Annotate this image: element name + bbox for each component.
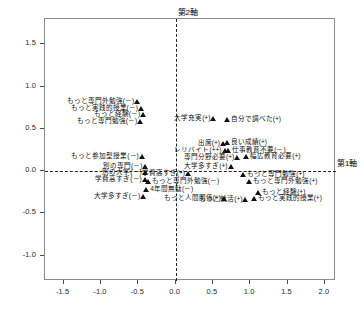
data-point-marker — [137, 119, 143, 124]
data-point-marker — [210, 116, 216, 121]
data-point-label: もっと専門勉強(+) — [247, 171, 304, 178]
horizontal-axis-title: 第1軸 — [337, 157, 357, 168]
y-axis-tick-label: -0.5 — [8, 207, 36, 216]
x-axis-tick-label: 0.0 — [160, 287, 190, 296]
x-axis-tick — [63, 280, 64, 284]
data-point-marker — [246, 179, 252, 184]
data-point-label: 出席(+) — [198, 139, 220, 146]
data-point-label: もっと参加型授業(－) — [71, 153, 138, 160]
data-point-label: 自分で調べた(+) — [231, 116, 281, 123]
data-point-marker — [140, 194, 146, 199]
x-axis-tick — [287, 280, 288, 284]
data-point-label: もっと専門外勉強(+) — [253, 178, 317, 185]
data-point-marker — [143, 187, 149, 192]
y-axis-tick-label: 1.5 — [8, 38, 36, 47]
data-point-marker — [251, 196, 257, 201]
y-axis-tick — [40, 212, 44, 213]
x-axis-tick-label: -1.5 — [48, 287, 78, 296]
data-point-label: もっと専門外勉強(－) — [152, 177, 219, 184]
data-point-label: もっと就活(+) — [199, 196, 242, 203]
x-axis-tick — [324, 280, 325, 284]
y-axis-tick-label: 1.0 — [8, 81, 36, 90]
y-axis-tick-label: 0.0 — [8, 165, 36, 174]
data-point-marker — [139, 154, 145, 159]
x-axis-tick-label: 0.5 — [197, 287, 227, 296]
data-point-label: 良い成績(+) — [231, 138, 267, 145]
y-axis-tick — [40, 128, 44, 129]
y-axis-tick — [40, 86, 44, 87]
data-point-label: もっと専門勉強(－) — [77, 117, 137, 124]
x-axis-tick — [100, 280, 101, 284]
correspondence-analysis-figure: 1.51.00.50.0-0.5-1.0-1.5-1.0-0.50.00.51.… — [0, 0, 364, 332]
x-axis-tick-label: 2.0 — [309, 287, 339, 296]
data-point-label: 幅広教育必要(+) — [250, 153, 300, 160]
data-point-label: 大学多すぎ(－) — [94, 193, 140, 200]
data-point-label: 大学多すぎ(+) — [184, 163, 227, 170]
data-point-marker — [234, 155, 240, 160]
x-axis-tick-label: 1.5 — [272, 287, 302, 296]
data-point-marker — [228, 164, 234, 169]
data-point-marker — [224, 140, 230, 145]
data-point-marker — [145, 179, 151, 184]
data-point-label: 専門分野必要(+) — [184, 154, 234, 161]
data-point-label: もっと実践的授業(+) — [258, 194, 322, 201]
y-axis-tick-label: 0.5 — [8, 123, 36, 132]
x-axis-tick-label: -1.0 — [85, 287, 115, 296]
data-point-marker — [240, 172, 246, 177]
data-point-marker — [242, 197, 248, 202]
x-axis-tick — [249, 280, 250, 284]
x-axis-tick — [137, 280, 138, 284]
data-point-label: 大学充実(+) — [174, 115, 210, 122]
x-axis-tick-label: -0.5 — [122, 287, 152, 296]
y-axis-tick — [40, 170, 44, 171]
y-axis-tick — [40, 255, 44, 256]
data-point-marker — [224, 117, 230, 122]
y-axis-tick-label: -1.0 — [8, 250, 36, 259]
vertical-axis-title: 第2軸 — [178, 6, 198, 17]
data-point-label: 4年間無駄(－) — [150, 186, 193, 193]
x-axis-tick — [212, 280, 213, 284]
data-point-marker — [140, 112, 146, 117]
data-point-marker — [243, 154, 249, 159]
x-axis-tick — [175, 280, 176, 284]
data-point-label: 学費高すぎ(－) — [95, 176, 141, 183]
data-point-marker — [185, 171, 191, 176]
data-point-label: 学費高すぎ(+) — [142, 170, 185, 177]
x-axis-tick-label: 1.0 — [234, 287, 264, 296]
y-axis-tick — [40, 43, 44, 44]
